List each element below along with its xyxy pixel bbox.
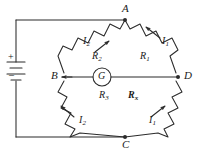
node-dot-d xyxy=(176,75,180,79)
current-arrow-i2-bottom xyxy=(61,106,74,117)
current-arrow-i1-top xyxy=(146,27,160,38)
resistor-r2-zigzag xyxy=(58,20,125,73)
current-label-i2-bottom-subscript: 2 xyxy=(82,119,86,127)
resistor-r3-zigzag xyxy=(58,81,125,137)
battery-minus-sign: – xyxy=(9,70,14,80)
wheatstone-bridge-figure: A B C D R2 R1 R3 Rx I2 I1 I2 I1 G + – xyxy=(0,0,200,155)
resistor-label-r1-subscript: 1 xyxy=(146,55,150,63)
current-label-i2-top: I2 xyxy=(83,36,90,48)
resistor-label-r2-subscript: 2 xyxy=(98,55,102,63)
resistor-label-r2: R2 xyxy=(92,51,102,63)
node-label-b: B xyxy=(51,70,58,81)
current-label-i1-top: I1 xyxy=(162,36,169,48)
current-label-i2-top-subscript: 2 xyxy=(86,40,90,48)
current-label-i2-bottom: I2 xyxy=(79,115,86,127)
current-label-i1-bottom-subscript: 1 xyxy=(152,119,156,127)
node-label-c: C xyxy=(122,139,129,150)
current-label-i1-top-subscript: 1 xyxy=(165,40,169,48)
current-label-i1-bottom: I1 xyxy=(149,115,156,127)
galvanometer-label: G xyxy=(98,71,105,81)
node-label-a: A xyxy=(122,3,129,14)
resistor-label-r3-subscript: 3 xyxy=(105,94,109,102)
battery-plus-sign: + xyxy=(8,52,14,62)
resistor-label-rx-base: R xyxy=(128,89,135,100)
node-dot-a xyxy=(123,18,127,22)
node-label-d: D xyxy=(184,70,192,81)
resistor-r1-zigzag xyxy=(125,20,178,73)
resistor-label-r3: R3 xyxy=(99,90,109,102)
outer-loop-wires xyxy=(16,20,125,137)
resistor-label-r1: R1 xyxy=(140,51,150,63)
resistor-label-rx-subscript: x xyxy=(135,94,139,102)
resistor-label-rx: Rx xyxy=(128,90,138,102)
